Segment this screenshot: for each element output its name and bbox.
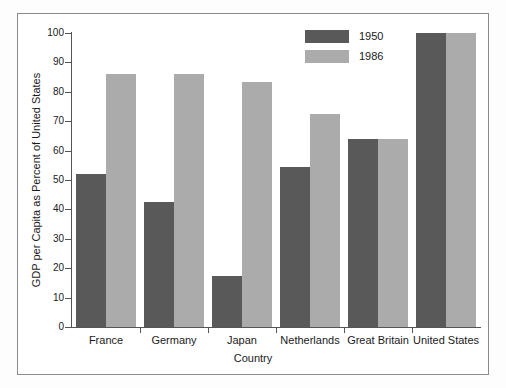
legend-swatch-1986 (305, 50, 349, 63)
y-tick-mark (65, 121, 71, 122)
y-tick-mark (65, 92, 71, 93)
y-tick-mark (65, 327, 71, 328)
y-tick-label-text: 0 (38, 322, 64, 332)
x-tick-mark (412, 328, 413, 333)
y-tick-label: 100 (34, 28, 64, 38)
bar-netherlands-1986[interactable] (310, 114, 340, 327)
bar-united-states-1986[interactable] (446, 33, 476, 327)
x-tick-mark (276, 328, 277, 333)
bar-japan-1950[interactable] (212, 276, 242, 327)
bar-group (280, 33, 340, 327)
y-tick-mark (65, 180, 71, 181)
y-axis-title: GDP per Capita as Percent of United Stat… (26, 40, 46, 320)
y-tick-mark (65, 239, 71, 240)
category-label-japan: Japan (208, 334, 276, 346)
x-tick-mark (140, 328, 141, 333)
bar-great-britain-1950[interactable] (348, 139, 378, 327)
y-tick-label-text: 100 (38, 28, 64, 38)
category-label-france: France (72, 334, 140, 346)
y-tick-mark (65, 209, 71, 210)
bar-group (348, 33, 408, 327)
bar-france-1986[interactable] (106, 74, 136, 327)
x-tick-mark (344, 328, 345, 333)
x-tick-mark (208, 328, 209, 333)
y-tick-mark (65, 268, 71, 269)
y-tick-mark (65, 298, 71, 299)
bar-japan-1986[interactable] (242, 82, 272, 327)
bar-group (144, 33, 204, 327)
legend-label-1986: 1986 (359, 50, 383, 63)
bar-series-area (72, 33, 480, 327)
bar-netherlands-1950[interactable] (280, 167, 310, 327)
y-tick-mark (65, 151, 71, 152)
bar-group (76, 33, 136, 327)
x-axis-title: Country (0, 352, 506, 364)
y-tick-mark (65, 62, 71, 63)
chart-figure: 0102030405060708090100 GDP per Capita as… (0, 0, 506, 388)
bar-france-1950[interactable] (76, 174, 106, 327)
category-label-germany: Germany (140, 334, 208, 346)
bar-germany-1986[interactable] (174, 74, 204, 327)
bar-group (212, 33, 272, 327)
y-tick-mark (65, 33, 71, 34)
bar-group (416, 33, 476, 327)
bar-great-britain-1986[interactable] (378, 139, 408, 327)
category-label-great-britain: Great Britain (344, 334, 412, 346)
bar-united-states-1950[interactable] (416, 33, 446, 327)
category-label-united-states: United States (412, 334, 480, 346)
legend-swatch-1950 (305, 30, 349, 43)
category-label-netherlands: Netherlands (276, 334, 344, 346)
bar-germany-1950[interactable] (144, 202, 174, 327)
legend-label-1950: 1950 (359, 30, 383, 43)
y-axis-title-text: GDP per Capita as Percent of United Stat… (30, 73, 42, 287)
y-tick-label: 0 (34, 322, 64, 332)
